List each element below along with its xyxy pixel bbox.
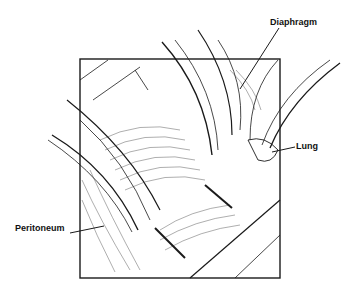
peritoneum-label: Peritoneum <box>15 223 65 233</box>
diaphragm-label: Diaphragm <box>270 17 317 27</box>
lung-label: Lung <box>296 141 318 151</box>
frame-border <box>80 59 280 278</box>
anatomical-illustration: Diaphragm Lung Peritoneum <box>0 0 362 295</box>
